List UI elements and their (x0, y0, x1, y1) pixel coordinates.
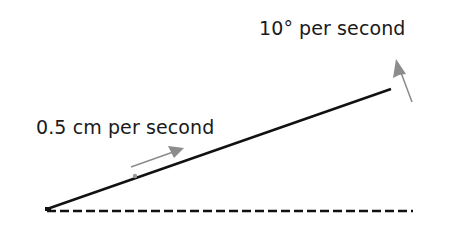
rotation-arrow-icon (393, 59, 412, 102)
rotating-line (47, 89, 391, 209)
pivot-point (45, 207, 51, 211)
moving-point-marker (133, 174, 137, 178)
linear-rate-label: 0.5 cm per second (36, 116, 214, 138)
rotation-rate-label: 10° per second (259, 17, 405, 39)
